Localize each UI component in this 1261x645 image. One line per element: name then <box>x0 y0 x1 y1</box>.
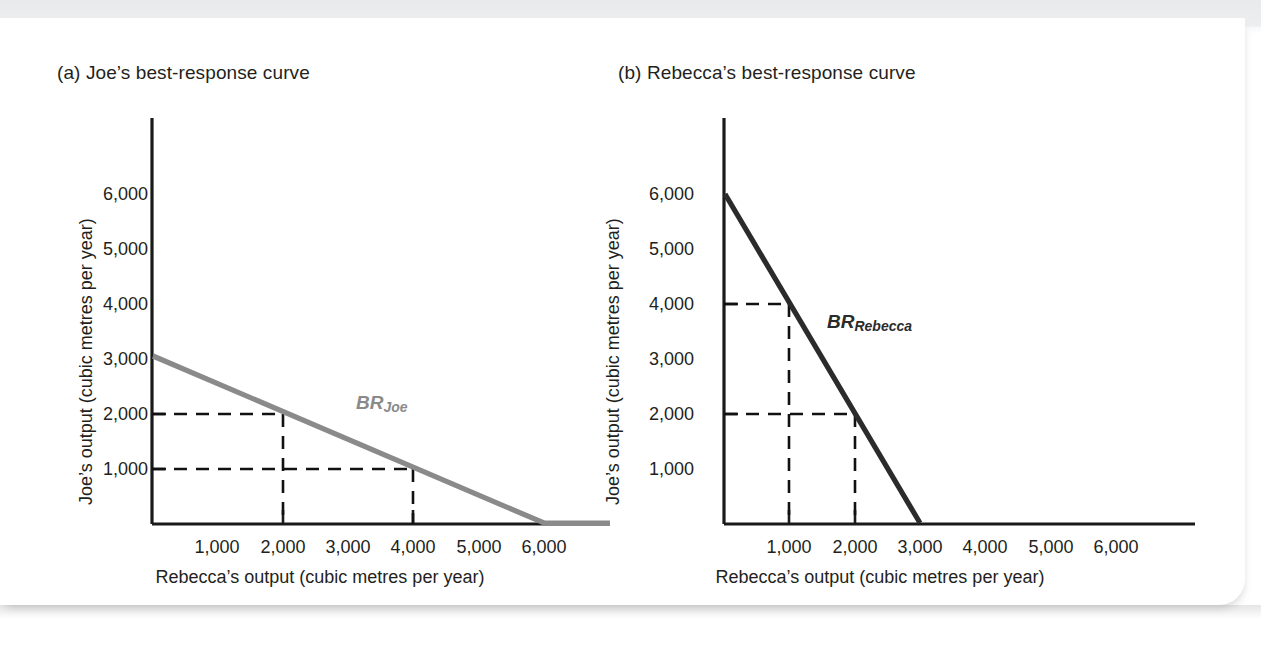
panel-b-br-rebecca-curve <box>725 194 920 523</box>
panel-b-plot-area <box>575 18 1245 578</box>
panel-joe-best-response: (a) Joe’s best-response curve Joe’s outp… <box>0 18 640 605</box>
panel-a-plot-area <box>0 18 640 578</box>
panel-rebecca-best-response: (b) Rebecca’s best-response curve Joe’s … <box>575 18 1245 605</box>
panel-b-svg <box>575 18 1245 578</box>
panel-a-br-joe-curve <box>153 356 610 523</box>
figure-card: (a) Joe’s best-response curve Joe’s outp… <box>0 18 1245 605</box>
panel-a-svg <box>0 18 640 578</box>
